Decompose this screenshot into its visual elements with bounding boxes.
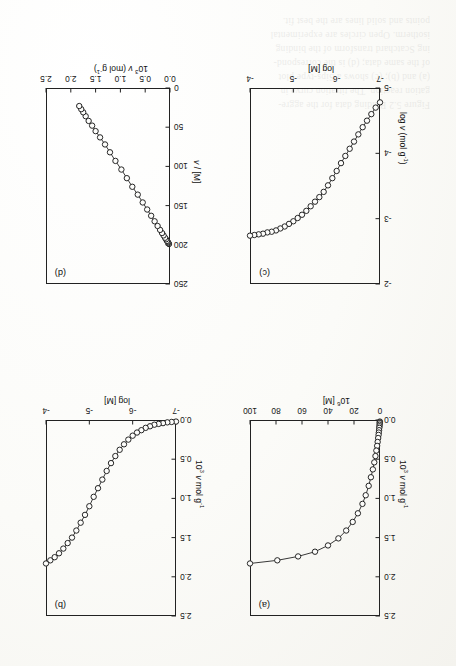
- ytick-label: 0.5: [384, 454, 412, 464]
- ytick-label: -2: [384, 279, 412, 289]
- xtick-label: 0.5: [136, 74, 154, 84]
- xtick-label: 2.0: [62, 74, 80, 84]
- xtick-label: 1.0: [111, 74, 129, 84]
- panel-b: (b) log [M] 103 v mol g-1 -7-6-5-40.00.5…: [36, 385, 216, 630]
- xtick-label: -6: [124, 406, 142, 416]
- panel-c-label: (c): [259, 268, 270, 278]
- ytick-label: 1.5: [180, 533, 208, 543]
- xtick-label: 40: [319, 406, 337, 416]
- ytick-label: 1.0: [384, 493, 412, 503]
- xtick-label: 20: [345, 406, 363, 416]
- xtick-label: 1.5: [87, 74, 105, 84]
- panel-a-label: (a): [259, 600, 270, 610]
- xtick-label: 100: [241, 406, 259, 416]
- xtick-label: -5: [284, 74, 302, 84]
- ytick-label: 250: [174, 279, 202, 289]
- ytick-label: 2.0: [180, 572, 208, 582]
- ytick-label: 100: [174, 161, 202, 171]
- ytick-label: 0: [174, 83, 202, 93]
- ytick-label: 1.0: [180, 493, 208, 503]
- ytick-label: 2.5: [384, 611, 412, 621]
- panel-d-xaxis-title: 103 v (mol g-1): [94, 64, 148, 74]
- panel-c: (c) log [M] log v (mol g-1) -7-6-5-4-5-4…: [240, 53, 420, 298]
- xtick-label: -4: [241, 74, 259, 84]
- panel-a-xaxis-title: 106 [M]: [323, 396, 350, 406]
- ytick-label: 150: [174, 201, 202, 211]
- ytick-label: 50: [174, 122, 202, 132]
- ytick-label: -4: [384, 148, 412, 158]
- xtick-label: -6: [328, 74, 346, 84]
- ytick-label: 2.5: [180, 611, 208, 621]
- xtick-label: 80: [267, 406, 285, 416]
- xtick-label: -4: [37, 406, 55, 416]
- ytick-label: 0.5: [180, 454, 208, 464]
- ytick-label: 0.0: [180, 415, 208, 425]
- ytick-label: 200: [174, 240, 202, 250]
- panel-b-label: (b): [55, 600, 66, 610]
- panel-b-xaxis-title: log [M]: [104, 396, 130, 406]
- panel-c-xaxis-title: log [M]: [308, 64, 334, 74]
- xtick-label: -5: [80, 406, 98, 416]
- ytick-label: -5: [384, 83, 412, 93]
- ytick-label: 1.5: [384, 533, 412, 543]
- ytick-label: 2.0: [384, 572, 412, 582]
- ytick-label: -3: [384, 214, 412, 224]
- panel-d: (d) 103 v (mol g-1) v / [M] 0.00.51.01.5…: [36, 53, 216, 298]
- xtick-label: 60: [293, 406, 311, 416]
- panel-a: (a) 106 [M] 103 v mol g-1 0204060801000.…: [240, 385, 420, 630]
- panel-d-label: (d): [55, 268, 66, 278]
- xtick-label: 2.5: [37, 74, 55, 84]
- figure-rotated-container: (a) 106 [M] 103 v mol g-1 0204060801000.…: [0, 0, 456, 666]
- ytick-label: 0.0: [384, 415, 412, 425]
